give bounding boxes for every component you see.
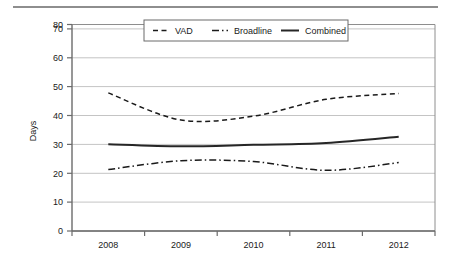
y-tick-label: 50 bbox=[53, 82, 63, 92]
y-tick-label: 30 bbox=[53, 140, 63, 150]
chart-legend: VAD Broadline Combined bbox=[144, 20, 348, 41]
y-axis-labels: 0 10 20 30 40 50 60 70 80 bbox=[53, 20, 63, 237]
y-tick-label: 0 bbox=[58, 226, 63, 236]
legend-label-broadline: Broadline bbox=[234, 26, 272, 36]
chart-figure: 0 10 20 30 40 50 60 70 80 Days 2008 2009… bbox=[0, 0, 456, 265]
y-tick-label: 60 bbox=[53, 53, 63, 63]
x-tick-label: 2008 bbox=[98, 240, 118, 250]
y-tick-label: 20 bbox=[53, 169, 63, 179]
series-line-vad bbox=[108, 93, 398, 122]
x-tick-label: 2012 bbox=[389, 240, 409, 250]
x-axis-ticks bbox=[72, 231, 435, 236]
y-axis-ticks bbox=[67, 25, 72, 232]
x-tick-label: 2011 bbox=[316, 240, 335, 250]
x-tick-label: 2009 bbox=[171, 240, 191, 250]
gridlines bbox=[72, 25, 435, 232]
x-tick-label: 2010 bbox=[243, 240, 263, 250]
series-line-combined bbox=[108, 137, 398, 147]
legend-label-vad: VAD bbox=[175, 26, 193, 36]
series-line-broadline bbox=[108, 160, 398, 170]
y-tick-label: 10 bbox=[53, 197, 63, 207]
x-axis-labels: 2008 2009 2010 2011 2012 bbox=[98, 240, 408, 250]
plot-frame bbox=[72, 25, 435, 232]
y-axis-title: Days bbox=[28, 120, 38, 141]
y-tick-label: 80 bbox=[53, 20, 63, 30]
series-group bbox=[108, 93, 398, 170]
legend-label-combined: Combined bbox=[305, 26, 346, 36]
line-chart: 0 10 20 30 40 50 60 70 80 Days 2008 2009… bbox=[0, 0, 456, 265]
y-tick-label: 40 bbox=[53, 111, 63, 121]
